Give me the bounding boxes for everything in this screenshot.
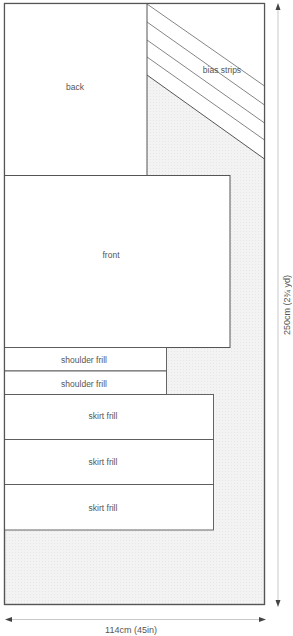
length-label: 250cm (2¾ yd) (282, 275, 292, 335)
front-label: front (102, 250, 120, 260)
width-label: 114cm (45in) (105, 625, 157, 635)
skirt-frill-1-label: skirt frill (89, 411, 118, 421)
bias-strips-label: bias strips (203, 65, 241, 75)
arrow-left-icon (5, 617, 12, 622)
piece-front (5, 176, 231, 348)
length-dimension: 250cm (2¾ yd) (276, 3, 293, 607)
shoulder-frill-1-label: shoulder frill (61, 355, 107, 365)
arrow-right-icon (259, 617, 266, 622)
arrow-down-icon (276, 600, 281, 607)
arrow-up-icon (276, 3, 281, 10)
cutting-layout-diagram: bias strips back front shoulder frill sh… (0, 0, 292, 636)
width-dimension: 114cm (45in) (5, 617, 266, 635)
skirt-frill-3-label: skirt frill (89, 503, 118, 513)
skirt-frill-2-label: skirt frill (89, 457, 118, 467)
back-label: back (66, 82, 85, 92)
shoulder-frill-2-label: shoulder frill (61, 379, 107, 389)
